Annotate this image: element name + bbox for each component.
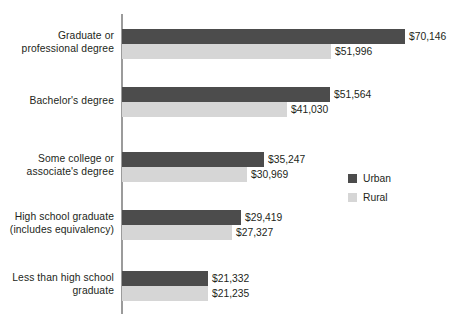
- category-label-line: Graduate or: [0, 30, 114, 43]
- bar-value-urban: $51,564: [330, 87, 371, 102]
- bar-value-rural: $27,327: [232, 225, 273, 240]
- bar-rural[interactable]: [122, 167, 247, 182]
- legend-label: Urban: [363, 173, 391, 184]
- legend-swatch-icon: [348, 193, 357, 202]
- category-label-line: Bachelor's degree: [0, 95, 114, 108]
- category-label-line: (includes equivalency): [0, 224, 114, 237]
- bar-value-rural: $21,235: [208, 286, 249, 301]
- bar-value-rural: $41,030: [287, 102, 328, 117]
- category-label: Graduate or professional degree: [0, 30, 114, 55]
- bar-value-urban: $35,247: [264, 152, 305, 167]
- bar-urban[interactable]: [122, 152, 264, 167]
- chart-legend: Urban Rural: [348, 170, 391, 208]
- category-label-line: Less than high school: [0, 272, 114, 285]
- category-label: Bachelor's degree: [0, 95, 114, 108]
- bar-value-urban: $70,146: [405, 29, 446, 44]
- category-label-line: graduate: [0, 285, 114, 298]
- bar-urban[interactable]: [122, 87, 330, 102]
- bar-value-rural: $51,996: [331, 44, 372, 59]
- bar-value-urban: $29,419: [241, 210, 282, 225]
- bar-rural[interactable]: [122, 225, 232, 240]
- legend-label: Rural: [363, 192, 388, 203]
- category-label-line: High school graduate: [0, 211, 114, 224]
- bar-urban[interactable]: [122, 210, 241, 225]
- category-label: High school graduate (includes equivalen…: [0, 211, 114, 236]
- legend-item-urban[interactable]: Urban: [348, 170, 391, 186]
- category-label: Some college or associate's degree: [0, 153, 114, 178]
- bar-value-urban: $21,332: [208, 271, 249, 286]
- bar-urban[interactable]: [122, 271, 208, 286]
- category-label-line: professional degree: [0, 43, 114, 56]
- category-label-line: Some college or: [0, 153, 114, 166]
- bar-urban[interactable]: [122, 29, 405, 44]
- bar-value-rural: $30,969: [247, 167, 288, 182]
- legend-item-rural[interactable]: Rural: [348, 189, 391, 205]
- category-label-line: associate's degree: [0, 166, 114, 179]
- category-label: Less than high school graduate: [0, 272, 114, 297]
- legend-swatch-icon: [348, 174, 357, 183]
- bar-rural[interactable]: [122, 286, 208, 301]
- bar-rural[interactable]: [122, 44, 331, 59]
- bar-rural[interactable]: [122, 102, 287, 117]
- bar-chart: Graduate or professional degree $70,146 …: [0, 0, 462, 328]
